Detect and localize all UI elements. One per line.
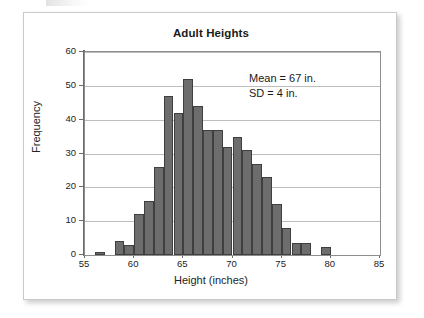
y-tick-mark [79, 153, 83, 154]
x-axis-label: Height (inches) [24, 274, 398, 286]
stats-annotation: Mean = 67 in. SD = 4 in. [249, 71, 316, 101]
x-tick-label: 55 [72, 258, 96, 269]
histogram-bar [154, 167, 164, 255]
histogram-bar [183, 79, 193, 255]
y-tick-label: 10 [54, 214, 76, 225]
histogram-bar [242, 150, 252, 255]
histogram-bar [95, 252, 105, 255]
histogram-bar [203, 130, 213, 255]
x-tick-label: 70 [220, 258, 244, 269]
histogram-bar [301, 243, 311, 255]
y-tick-mark [79, 85, 83, 86]
histogram-bar [321, 247, 331, 255]
y-tick-label: 60 [54, 45, 76, 56]
chart-title: Adult Heights [24, 27, 398, 39]
y-tick-mark [79, 220, 83, 221]
y-tick-label: 50 [54, 79, 76, 90]
histogram-bar [272, 204, 282, 255]
histogram-bars [85, 52, 380, 255]
plot-area [84, 51, 381, 256]
y-axis-label: Frequency [30, 67, 42, 187]
x-tick-label: 60 [121, 258, 145, 269]
histogram-bar [193, 106, 203, 255]
x-tick-label: 80 [318, 258, 342, 269]
y-tick-mark [79, 254, 83, 255]
x-tick-label: 85 [367, 258, 391, 269]
sd-text: SD = 4 in. [249, 86, 316, 101]
y-tick-label: 30 [54, 147, 76, 158]
x-tick-label: 65 [170, 258, 194, 269]
histogram-bar [262, 177, 272, 255]
page-artifact [46, 0, 90, 6]
histogram-bar [252, 164, 262, 255]
y-tick-mark [79, 186, 83, 187]
histogram-bar [144, 201, 154, 255]
y-tick-label: 40 [54, 113, 76, 124]
chart-card: Adult Heights Frequency Height (inches) … [23, 12, 397, 300]
histogram-bar [223, 147, 233, 255]
histogram-bar [174, 113, 184, 255]
x-tick-label: 75 [269, 258, 293, 269]
histogram-bar [115, 241, 125, 255]
histogram-bar [233, 137, 243, 255]
y-tick-mark [79, 119, 83, 120]
histogram-bar [134, 214, 144, 255]
histogram-bar [124, 245, 134, 255]
histogram-bar [164, 96, 174, 255]
histogram-bar [282, 228, 292, 255]
mean-text: Mean = 67 in. [249, 71, 316, 86]
y-tick-label: 20 [54, 180, 76, 191]
y-tick-mark [79, 51, 83, 52]
histogram-bar [213, 130, 223, 255]
histogram-bar [292, 243, 302, 255]
